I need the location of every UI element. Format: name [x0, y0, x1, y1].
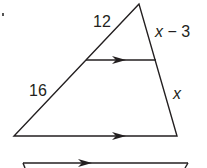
- next-figure-left-edge: [23, 163, 25, 168]
- stray-mark: [2, 13, 4, 16]
- triangle-diagram: 12 16 x − 3 x: [0, 0, 207, 168]
- label-x: x: [172, 85, 182, 102]
- label-12: 12: [93, 13, 111, 30]
- label-x-minus-3: x − 3: [154, 23, 190, 40]
- next-figure-right-edge: [185, 163, 188, 168]
- label-16: 16: [29, 82, 47, 99]
